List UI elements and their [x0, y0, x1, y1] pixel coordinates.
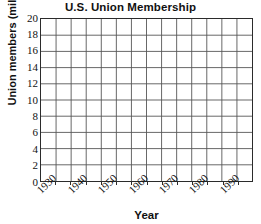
- y-axis-tick-label: 2: [16, 160, 38, 171]
- y-axis-tick-label: 16: [16, 45, 38, 56]
- y-axis-tick-label: 12: [16, 78, 38, 89]
- x-axis-title: Year: [40, 209, 253, 221]
- y-axis-tick-label: 4: [16, 144, 38, 155]
- grid-lines: [41, 19, 252, 181]
- y-axis-tick-label: 14: [16, 62, 38, 73]
- y-axis-tick-label: 18: [16, 29, 38, 40]
- y-axis-tick-label: 10: [16, 95, 38, 106]
- x-axis-tick-label: 1930: [35, 172, 58, 195]
- chart-title: U.S. Union Membership: [0, 1, 261, 13]
- x-axis-tick-labels: 1930194019501960197019801990: [40, 182, 253, 212]
- y-axis-tick-labels: 20181614121086420: [16, 12, 38, 188]
- y-axis-tick-label: 6: [16, 127, 38, 138]
- y-axis-tick-label: 8: [16, 111, 38, 122]
- plot-area: [40, 18, 253, 182]
- chart-container: U.S. Union Membership Union members (mil…: [0, 0, 261, 224]
- y-axis-tick-label: 20: [16, 13, 38, 24]
